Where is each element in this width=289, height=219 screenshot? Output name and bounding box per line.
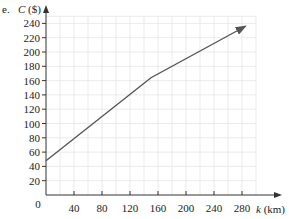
x-axis-arrow-icon	[274, 192, 282, 198]
y-tick-label: 160	[24, 75, 41, 87]
y-tick-label: 80	[29, 132, 41, 144]
y-tick-label: 120	[24, 103, 41, 115]
line-chart: 4080120160200240280204060801001201401601…	[0, 0, 289, 219]
y-tick-label: 240	[24, 17, 41, 29]
y-axis-label: C ($)	[18, 3, 41, 16]
cost-line	[46, 26, 246, 160]
y-tick-label: 100	[24, 118, 41, 130]
y-tick-label: 220	[24, 32, 41, 44]
x-tick-label: 200	[178, 202, 195, 214]
x-tick-label: 280	[234, 202, 251, 214]
y-tick-label: 60	[29, 146, 41, 158]
y-tick-label: 180	[24, 60, 41, 72]
y-tick-label: 20	[29, 175, 41, 187]
x-tick-label: 80	[97, 202, 109, 214]
x-tick-label: 40	[69, 202, 81, 214]
x-axis-label: k (km)	[256, 203, 285, 216]
y-tick-label: 40	[29, 160, 41, 172]
x-tick-label: 120	[122, 202, 139, 214]
y-axis-arrow-icon	[43, 5, 49, 13]
origin-label: 0	[35, 198, 41, 210]
y-tick-label: 140	[24, 89, 41, 101]
y-tick-label: 200	[24, 46, 41, 58]
x-tick-label: 240	[206, 202, 223, 214]
question-label: e.	[2, 3, 10, 15]
x-tick-label: 160	[150, 202, 167, 214]
